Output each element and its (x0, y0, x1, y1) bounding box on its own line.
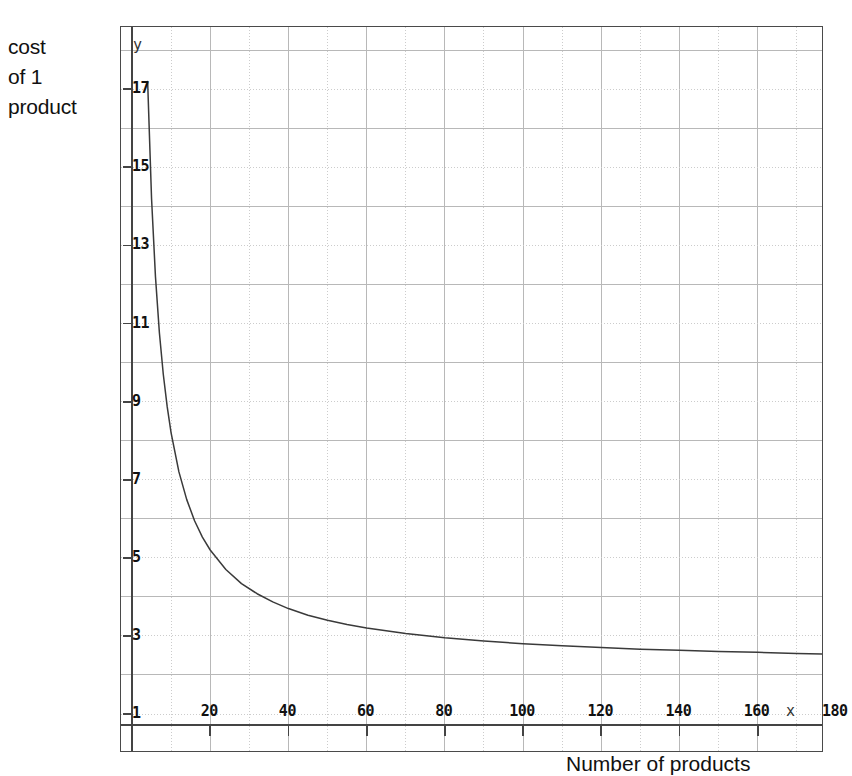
x-tick-label-160: 160 (732, 702, 782, 720)
x-axis-caption: Number of products (566, 752, 750, 776)
x-tick-label-20: 20 (184, 702, 234, 720)
y-axis-caption-line-2: of 1 (8, 62, 112, 92)
x-axis-name: x (786, 702, 795, 720)
data-curve (121, 27, 823, 752)
y-tick-label-9: 9 (132, 392, 141, 410)
y-axis-caption-line-1: cost (8, 32, 112, 62)
y-tick-label-17: 17 (132, 79, 149, 97)
y-axis-caption: cost of 1 product (8, 32, 112, 122)
y-tick-label-5: 5 (132, 548, 141, 566)
y-tick-label-3: 3 (132, 626, 141, 644)
x-tick-label-100: 100 (497, 702, 547, 720)
x-tick-label-120: 120 (575, 702, 625, 720)
y-tick-label-1: 1 (132, 704, 141, 722)
x-tick-label-60: 60 (341, 702, 391, 720)
y-tick-label-11: 11 (132, 314, 149, 332)
y-tick-label-15: 15 (132, 157, 149, 175)
x-tick-label-80: 80 (419, 702, 469, 720)
plot-area (120, 26, 823, 752)
x-tick-label-180: 180 (810, 702, 852, 720)
x-tick-label-140: 140 (653, 702, 703, 720)
y-tick-label-7: 7 (132, 470, 141, 488)
y-axis-name: y (133, 36, 142, 54)
y-tick-label-13: 13 (132, 235, 149, 253)
y-axis-caption-line-3: product (8, 92, 112, 122)
x-tick-label-40: 40 (262, 702, 312, 720)
